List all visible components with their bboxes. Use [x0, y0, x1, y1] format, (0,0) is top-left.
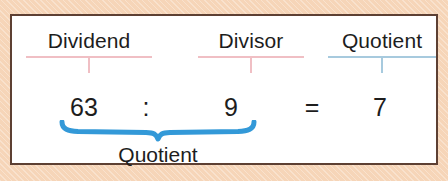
dividend-pointer — [26, 56, 152, 74]
quotient-label: Quotient — [328, 30, 436, 51]
quotient-pointer — [328, 56, 436, 74]
underbrace-quotient-label: Quotient — [58, 144, 258, 165]
label-group-quotient: Quotient — [328, 30, 436, 74]
equation-row: 63 : 9 = 7 — [12, 90, 436, 124]
divisor-pointer-stem — [250, 56, 252, 73]
dividend-pointer-stem — [88, 56, 90, 73]
equation-quotient-value: 7 — [360, 90, 400, 124]
equation-division-operator: : — [134, 90, 158, 124]
diagram-card: Dividend Divisor Quotient 63 : 9 — [10, 14, 438, 165]
divisor-label: Divisor — [198, 30, 304, 51]
equation-equals-sign: = — [294, 90, 330, 124]
quotient-underbrace-icon — [58, 120, 258, 142]
figure-canvas: Dividend Divisor Quotient 63 : 9 — [0, 0, 448, 181]
divisor-pointer — [198, 56, 304, 74]
equation-dividend-value: 63 — [54, 90, 114, 124]
label-group-dividend: Dividend — [26, 30, 152, 74]
label-group-divisor: Divisor — [198, 30, 304, 74]
equation-divisor-value: 9 — [208, 90, 254, 124]
dividend-label: Dividend — [26, 30, 152, 51]
quotient-pointer-stem — [381, 56, 383, 73]
